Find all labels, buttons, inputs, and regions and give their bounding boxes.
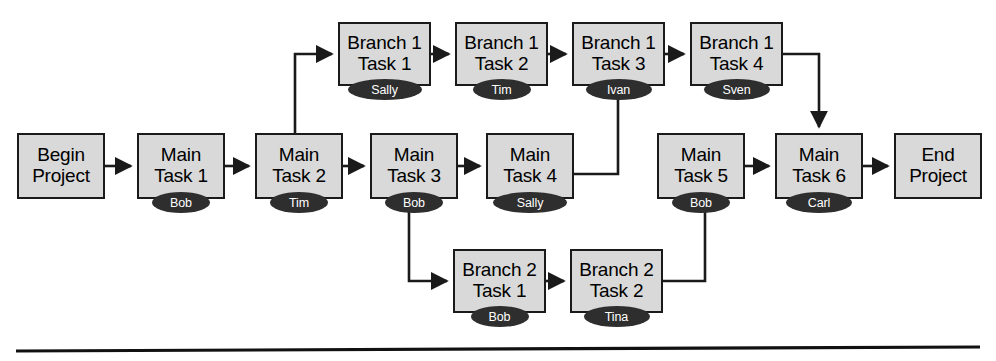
owner-badge-label: Ivan [607,83,630,97]
owner-badge-main1: Bob [152,192,210,213]
owner-badge-main5: Bob [672,192,730,213]
owner-badge-label: Sven [722,83,750,97]
node-label-line2: Task 3 [387,166,441,187]
edge-main2-b1t1 [295,54,332,133]
node-end[interactable]: EndProject [894,133,982,199]
node-label-line2: Task 1 [473,281,527,302]
owner-badge-label: Bob [690,196,712,210]
node-label-line1: Main [394,145,434,166]
owner-badge-label: Bob [170,196,192,210]
node-label-line2: Task 1 [154,166,208,187]
owner-badge-b1t3: Ivan [586,79,652,100]
owner-badge-b2t1: Bob [471,306,529,327]
owner-badge-label: Carl [808,196,831,210]
node-label-line1: Branch 1 [464,33,538,54]
owner-badge-b1t4: Sven [704,79,770,100]
node-label-line2: Task 2 [590,281,644,302]
node-label-line1: Main [279,145,319,166]
node-label-line2: Task 2 [475,54,529,75]
owner-badge-label: Sally [517,196,544,210]
flowchart-canvas: BeginProjectMainTask 1BobMainTask 2TimMa… [0,0,996,361]
owner-badge-b1t1: Sally [348,79,422,100]
owner-badge-label: Sally [371,83,398,97]
node-label-line1: Branch 2 [579,260,653,281]
node-label-line1: Branch 2 [462,260,536,281]
node-label-line2: Task 6 [792,166,846,187]
node-label-line2: Task 4 [503,166,557,187]
owner-badge-label: Bob [489,310,511,324]
node-main6[interactable]: MainTask 6 [775,133,863,199]
node-main4[interactable]: MainTask 4 [486,133,574,199]
owner-badge-b1t2: Tim [473,79,531,100]
node-label-line2: Task 4 [710,54,764,75]
node-label-line1: Begin [37,145,85,166]
node-label-line1: Branch 1 [347,33,421,54]
node-label-line1: End [921,145,954,166]
node-label-line1: Main [510,145,550,166]
node-b1t4[interactable]: Branch 1Task 4 [690,22,783,86]
owner-badge-label: Bob [403,196,425,210]
owner-badge-label: Tim [491,83,511,97]
node-label-line2: Task 1 [358,54,412,75]
bottom-divider-rule [16,347,980,351]
node-b2t2[interactable]: Branch 2Task 2 [570,249,663,313]
node-label-line1: Main [799,145,839,166]
owner-badge-main4: Sally [493,192,567,213]
node-label-line1: Main [161,145,201,166]
node-label-line1: Branch 1 [581,33,655,54]
node-b1t3[interactable]: Branch 1Task 3 [572,22,665,86]
node-b2t1[interactable]: Branch 2Task 1 [453,249,546,313]
node-label-line2: Task 3 [592,54,646,75]
node-main3[interactable]: MainTask 3 [370,133,458,199]
node-main5[interactable]: MainTask 5 [657,133,745,199]
owner-badge-label: Tina [605,310,628,324]
node-label-line1: Main [681,145,721,166]
owner-badge-main2: Tim [270,192,328,213]
node-main1[interactable]: MainTask 1 [137,133,225,199]
node-b1t2[interactable]: Branch 1Task 2 [455,22,548,86]
node-label-line1: Branch 1 [699,33,773,54]
node-label-line2: Task 2 [272,166,326,187]
owner-badge-b2t2: Tina [584,306,650,327]
edge-b1t4-main6 [783,54,819,127]
node-label-line2: Task 5 [674,166,728,187]
owner-badge-main3: Bob [385,192,443,213]
node-main2[interactable]: MainTask 2 [255,133,343,199]
owner-badge-main6: Carl [786,192,852,213]
node-label-line2: Project [909,166,967,187]
node-label-line2: Project [32,166,90,187]
owner-badge-label: Tim [289,196,309,210]
node-begin[interactable]: BeginProject [17,133,105,199]
node-b1t1[interactable]: Branch 1Task 1 [338,22,431,86]
